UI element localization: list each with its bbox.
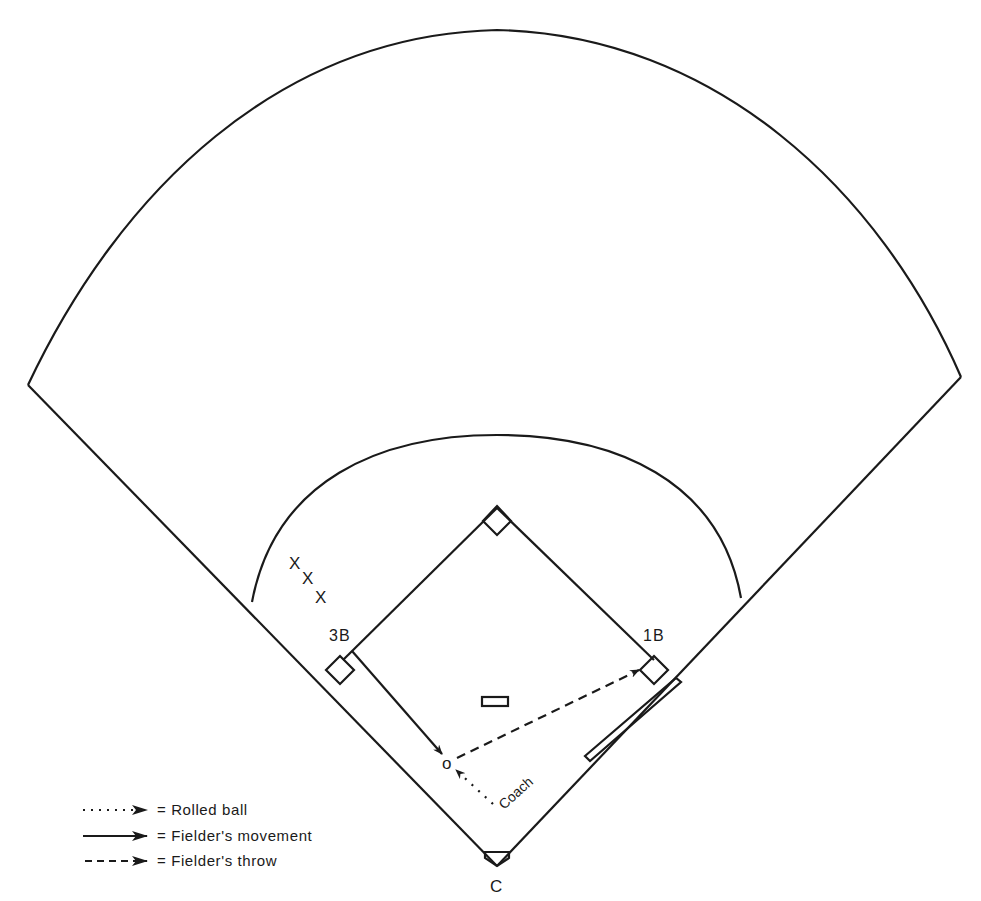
rolled-ball-arrow bbox=[456, 770, 493, 804]
fielder-movement-arrow bbox=[352, 651, 442, 754]
coaches-box bbox=[585, 678, 681, 761]
waiting-player-3: X bbox=[315, 588, 326, 607]
first-base bbox=[640, 656, 668, 684]
legend-rolled-ball: = Rolled ball bbox=[157, 801, 248, 818]
third-base-label: 3B bbox=[329, 627, 351, 644]
second-base bbox=[483, 506, 511, 535]
outfield-fence bbox=[28, 30, 961, 385]
legend-fielders-movement: = Fielder's movement bbox=[157, 827, 313, 844]
left-foul-line bbox=[28, 385, 497, 866]
waiting-player-1: X bbox=[289, 554, 300, 573]
infield-arc bbox=[252, 435, 741, 602]
base-path-third-to-second bbox=[343, 508, 497, 660]
pitchers-rubber bbox=[482, 697, 508, 706]
base-path-second-to-first bbox=[497, 508, 654, 660]
third-base bbox=[326, 656, 354, 684]
home-plate bbox=[485, 852, 509, 866]
field-diagram: X X X 3B 1B C o Coach = Rolled ball = Fi… bbox=[0, 0, 981, 901]
waiting-player-2: X bbox=[302, 569, 313, 588]
coach-label: Coach bbox=[495, 773, 536, 812]
legend-fielders-throw: = Fielder's throw bbox=[157, 852, 277, 869]
legend: = Rolled ball = Fielder's movement = Fie… bbox=[83, 801, 313, 869]
first-base-label: 1B bbox=[643, 627, 665, 644]
catcher-label: C bbox=[490, 877, 502, 896]
fielder-marker: o bbox=[442, 754, 451, 773]
right-foul-line bbox=[497, 377, 961, 866]
